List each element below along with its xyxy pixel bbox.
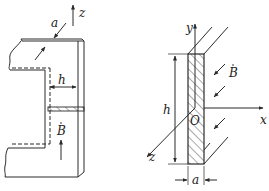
- diagram-canvas: a h B z y x z O h a B: [0, 0, 269, 191]
- upper-limb-top: [21, 39, 84, 41]
- left-figure: [5, 5, 84, 177]
- label-a-right: a: [192, 173, 199, 187]
- label-b-left: B: [56, 124, 66, 138]
- upper-limb-break: [9, 41, 21, 70]
- label-z-left: z: [78, 6, 86, 20]
- label-h-left: h: [58, 73, 66, 87]
- hatched-section-right: [188, 54, 204, 164]
- label-y: y: [185, 21, 193, 35]
- label-h-right: h: [163, 103, 171, 117]
- label-a-left: a: [51, 16, 58, 30]
- label-origin: O: [190, 114, 200, 128]
- label-z-right: z: [148, 150, 156, 164]
- b-dot-right: [232, 64, 234, 66]
- lower-limb-break: [5, 148, 8, 177]
- hatched-section-left: [48, 107, 84, 111]
- label-b-right: B: [228, 66, 238, 80]
- label-x: x: [260, 113, 267, 127]
- b-dot-left: [60, 122, 62, 124]
